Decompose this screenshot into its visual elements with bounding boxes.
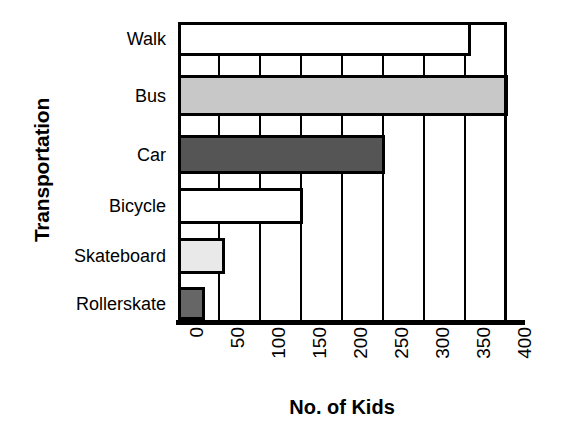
bar-rollerskate [178, 287, 205, 320]
bar-bus [178, 75, 508, 116]
y-axis-spine [178, 22, 181, 323]
right-axis-spine [504, 22, 507, 323]
x-tick-label-0: 0 [187, 327, 206, 383]
plot-area [178, 22, 506, 320]
x-axis-tick-labels: 050100150200250300350400 [178, 327, 508, 385]
bar-bicycle [178, 188, 303, 224]
bar-car [178, 135, 385, 174]
category-label-bicycle: Bicycle [109, 197, 166, 215]
x-tick-label-350: 350 [474, 327, 493, 383]
bar-chart: Transportation WalkBusCarBicycleSkateboa… [0, 0, 563, 437]
bar-skateboard [178, 238, 225, 274]
y-axis-category-labels: WalkBusCarBicycleSkateboardRollerskate [0, 22, 172, 320]
x-tick-label-150: 150 [310, 327, 329, 383]
x-tick-label-250: 250 [392, 327, 411, 383]
category-label-car: Car [137, 146, 166, 164]
category-label-bus: Bus [135, 87, 166, 105]
x-tick-label-200: 200 [351, 327, 370, 383]
bar-walk [178, 22, 471, 56]
x-tick-label-400: 400 [515, 327, 534, 383]
x-tick-label-300: 300 [433, 327, 452, 383]
category-label-rollerskate: Rollerskate [76, 295, 166, 313]
x-axis-title: No. of Kids [178, 396, 506, 419]
x-axis-line [176, 320, 525, 325]
x-tick-label-100: 100 [269, 327, 288, 383]
category-label-skateboard: Skateboard [74, 247, 166, 265]
category-label-walk: Walk [127, 30, 166, 48]
gridline-350 [464, 22, 466, 320]
x-tick-label-50: 50 [228, 327, 247, 383]
gridline-300 [423, 22, 425, 320]
